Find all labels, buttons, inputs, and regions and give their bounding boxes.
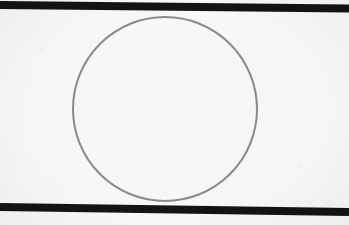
figure-background (0, 0, 349, 225)
geometry-figure-canvas (0, 0, 349, 225)
bottom-tangent-line (0, 207, 349, 212)
geometry-diagram-svg (0, 0, 349, 225)
top-tangent-line (0, 5, 349, 9)
